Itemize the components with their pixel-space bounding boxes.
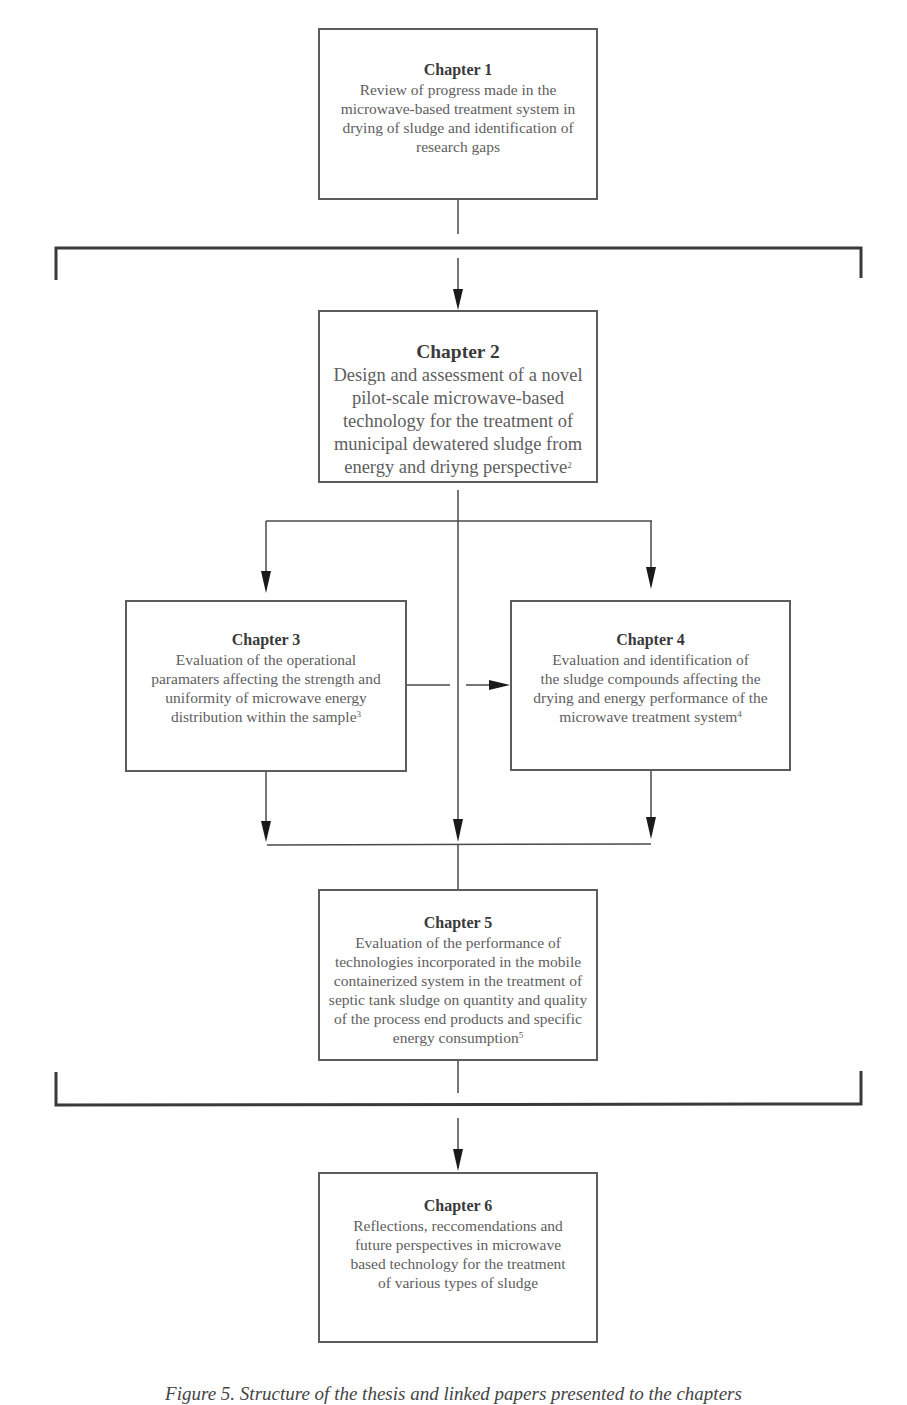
chapter-2-box: Chapter 2 Design and assessment of a nov…	[318, 310, 598, 483]
footnote-marker: 3	[357, 709, 362, 719]
chapter-5-line-last: energy consumption5	[324, 1028, 592, 1047]
chapter-5-line: technologies incorporated in the mobile	[324, 952, 592, 971]
chapter-2-title: Chapter 2	[324, 340, 592, 364]
chapter-1-line: Review of progress made in the	[324, 80, 592, 99]
chapter-4-line: the sludge compounds affecting the	[516, 669, 785, 688]
chapter-2-line: technology for the treatment of	[324, 410, 592, 433]
chapter-2-line: Design and assessment of a novel	[324, 364, 592, 387]
chapter-3-line: paramaters affecting the strength and	[131, 669, 401, 688]
chapter-3-line: uniformity of microwave energy	[131, 688, 401, 707]
chapter-6-line: based technology for the treatment	[324, 1254, 592, 1273]
footnote-marker: 5	[519, 1030, 524, 1040]
chapter-5-line: containerized system in the treatment of	[324, 971, 592, 990]
chapter-6-line: Reflections, reccomendations and	[324, 1216, 592, 1235]
arrowhead-icon	[453, 1149, 463, 1171]
chapter-1-box: Chapter 1 Review of progress made in the…	[318, 28, 598, 200]
chapter-1-line: microwave-based treatment system in	[324, 99, 592, 118]
chapter-3-line-last: distribution within the sample3	[131, 707, 401, 726]
chapter-5-line: Evaluation of the performance of	[324, 933, 592, 952]
arrowhead-icon	[261, 571, 271, 593]
chapter-4-title: Chapter 4	[516, 630, 785, 650]
chapter-5-title: Chapter 5	[324, 913, 592, 933]
arrowhead-icon	[646, 817, 656, 839]
arrowhead-icon	[453, 819, 463, 842]
chapter-6-title: Chapter 6	[324, 1196, 592, 1216]
chapter-3-line: Evaluation of the operational	[131, 650, 401, 669]
arrowhead-icon	[453, 289, 463, 310]
chapter-5-line: of the process end products and specific	[324, 1009, 592, 1028]
arrowhead-icon	[646, 567, 656, 589]
footnote-marker: 2	[567, 460, 572, 470]
chapter-4-box: Chapter 4 Evaluation and identification …	[510, 600, 791, 771]
chapter-1-line: research gaps	[324, 137, 592, 156]
arrowhead-icon	[489, 680, 510, 690]
chapter-6-line: future perspectives in microwave	[324, 1235, 592, 1254]
merge-line	[267, 844, 651, 845]
chapter-4-line: drying and energy performance of the	[516, 688, 785, 707]
chapter-2-line-last: energy and driyng perspective2	[324, 456, 592, 479]
chapter-5-box: Chapter 5 Evaluation of the performance …	[318, 889, 598, 1061]
chapter-5-line: septic tank sludge on quantity and quali…	[324, 990, 592, 1009]
chapter-4-line: microwave treatment system	[559, 708, 737, 725]
chapter-3-line: distribution within the sample	[171, 708, 357, 725]
chapter-3-title: Chapter 3	[131, 630, 401, 650]
chapter-1-line: drying of sludge and identification of	[324, 118, 592, 137]
chapter-3-box: Chapter 3 Evaluation of the operational …	[125, 600, 407, 772]
chapter-1-title: Chapter 1	[324, 60, 592, 80]
chapter-2-line: pilot-scale microwave-based	[324, 387, 592, 410]
chapter-4-line-last: microwave treatment system4	[516, 707, 785, 726]
chapter-2-line: energy and driyng perspective	[344, 457, 567, 477]
chapter-2-line: municipal dewatered sludge from	[324, 433, 592, 456]
chapter-6-line: of various types of sludge	[324, 1273, 592, 1292]
arrowhead-icon	[261, 821, 271, 842]
chapter-5-line: energy consumption	[393, 1029, 519, 1046]
chapter-4-line: Evaluation and identification of	[516, 650, 785, 669]
footnote-marker: 4	[737, 709, 742, 719]
figure-caption: Figure 5. Structure of the thesis and li…	[0, 1383, 907, 1405]
chapter-6-box: Chapter 6 Reflections, reccomendations a…	[318, 1172, 598, 1343]
